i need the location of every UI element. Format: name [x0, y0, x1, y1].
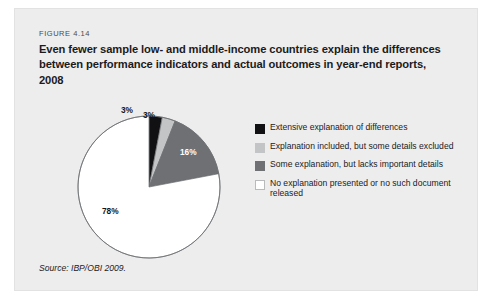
pie-slice-label-lacks-important-details: 16% — [180, 147, 197, 157]
pie-slice-label-no-explanation: 78% — [102, 206, 119, 216]
legend-swatch-icon-no-explanation — [255, 180, 265, 190]
legend-label-no-explanation: No explanation presented or no such docu… — [270, 178, 470, 199]
figure-number-label: FIGURE 4.14 — [39, 29, 90, 38]
legend-label-some-details-excluded: Explanation included, but some details e… — [270, 141, 453, 152]
legend-item-some-details-excluded: Explanation included, but some details e… — [255, 141, 470, 153]
pie-slice-label-some-details-excluded: 3% — [143, 110, 155, 120]
legend-swatch-icon-extensive — [255, 124, 265, 134]
chart-legend: Extensive explanation of differences Exp… — [255, 122, 470, 205]
legend-item-extensive: Extensive explanation of differences — [255, 122, 470, 134]
legend-swatch-icon-lacks-important-details — [255, 161, 265, 171]
pie-slice-label-extensive: 3% — [121, 105, 133, 115]
legend-label-extensive: Extensive explanation of differences — [270, 122, 407, 133]
chart-title: Even fewer sample low- and middle-income… — [39, 42, 451, 88]
pie-chart: 3% 3% 16% 78% — [64, 103, 239, 263]
legend-label-lacks-important-details: Some explanation, but lacks important de… — [270, 159, 443, 170]
legend-item-lacks-important-details: Some explanation, but lacks important de… — [255, 159, 470, 171]
figure-panel: FIGURE 4.14 Even fewer sample low- and m… — [14, 8, 478, 291]
pie-slice-group — [78, 116, 220, 258]
legend-swatch-icon-some-details-excluded — [255, 143, 265, 153]
pie-chart-svg — [64, 103, 239, 263]
source-note: Source: IBP/OBI 2009. — [39, 263, 126, 273]
legend-item-no-explanation: No explanation presented or no such docu… — [255, 178, 470, 199]
